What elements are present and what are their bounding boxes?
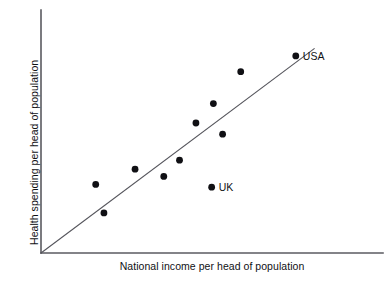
data-point: [219, 131, 226, 138]
data-point: [193, 120, 200, 127]
data-point: [160, 173, 167, 180]
data-point: [92, 181, 99, 188]
plot-area: [0, 0, 386, 282]
scatter-chart-figure: USA UK Health spending per head of popul…: [0, 0, 386, 282]
data-point: [176, 157, 183, 164]
data-label-usa: USA: [303, 50, 325, 62]
data-point-usa: [292, 53, 299, 60]
x-axis-label: National income per head of population: [41, 260, 383, 272]
data-point: [237, 68, 244, 75]
data-point: [210, 100, 217, 107]
data-point-uk: [208, 184, 215, 191]
data-point: [132, 166, 139, 173]
data-label-uk: UK: [219, 181, 234, 193]
y-axis-label: Health spending per head of population: [28, 15, 42, 245]
diagonal-trend-line: [41, 48, 315, 253]
data-point: [101, 210, 108, 217]
